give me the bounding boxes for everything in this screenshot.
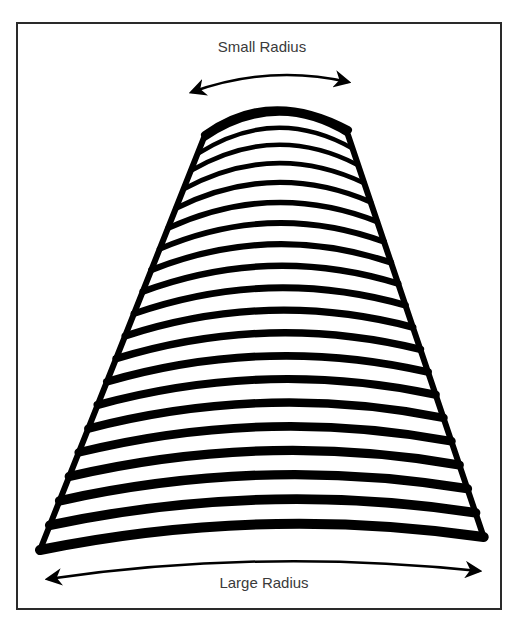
coil-arc [40,524,484,550]
small-radius-label: Small Radius [218,38,306,55]
large-radius-label: Large Radius [219,574,308,591]
small-radius-arrow [192,75,348,92]
coil-arc [184,163,365,189]
tapered-coil-diagram [0,0,527,631]
coil-body [40,110,484,550]
coil-arc [191,145,358,171]
coil-arc [198,128,353,154]
